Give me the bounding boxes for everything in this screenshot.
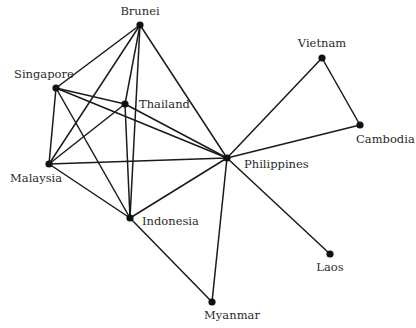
node-singapore [52, 84, 59, 91]
node-philippines [223, 154, 230, 161]
node-indonesia [126, 214, 133, 221]
node-malaysia [45, 160, 52, 167]
node-label-myanmar: Myanmar [204, 308, 260, 322]
edge-thailand-philippines [125, 104, 227, 158]
node-label-indonesia: Indonesia [142, 214, 199, 228]
node-label-laos: Laos [316, 260, 343, 274]
edge-philippines-vietnam [227, 58, 322, 158]
node-label-philippines: Philippines [244, 157, 309, 171]
node-laos [326, 250, 333, 257]
edge-indonesia-philippines [130, 158, 227, 218]
edge-singapore-malaysia [49, 88, 56, 164]
node-label-vietnam: Vietnam [297, 36, 346, 50]
node-label-singapore: Singapore [14, 67, 74, 81]
edge-philippines-myanmar [212, 158, 227, 302]
edges-layer [49, 25, 360, 302]
node-myanmar [208, 298, 215, 305]
edge-indonesia-myanmar [130, 218, 212, 302]
node-label-thailand: Thailand [139, 97, 191, 111]
edge-vietnam-cambodia [322, 58, 360, 125]
node-label-malaysia: Malaysia [10, 171, 62, 185]
node-label-cambodia: Cambodia [356, 132, 415, 146]
edge-philippines-cambodia [227, 125, 360, 158]
edge-malaysia-philippines [49, 158, 227, 164]
edge-singapore-indonesia [56, 88, 130, 218]
node-cambodia [356, 121, 363, 128]
edge-brunei-philippines [140, 25, 227, 158]
node-brunei [136, 21, 143, 28]
edge-philippines-laos [227, 158, 330, 254]
node-label-brunei: Brunei [120, 4, 160, 18]
node-thailand [121, 100, 128, 107]
network-diagram: BruneiSingaporeThailandMalaysiaIndonesia… [0, 0, 416, 328]
edge-thailand-malaysia [49, 104, 125, 164]
node-vietnam [318, 54, 325, 61]
